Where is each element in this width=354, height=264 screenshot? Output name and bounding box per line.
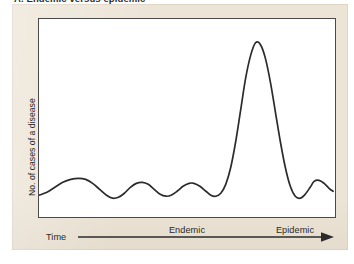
figure-title: A. Endemic versus epidemic xyxy=(14,0,145,4)
time-arrow-icon xyxy=(78,230,336,244)
time-axis: Time xyxy=(46,230,336,248)
disease-cases-curve xyxy=(39,42,333,198)
plot-frame: Endemic Epidemic xyxy=(38,18,336,218)
y-axis-label: No. of cases of a disease xyxy=(27,0,37,196)
time-axis-label: Time xyxy=(46,232,66,242)
disease-cases-curve-svg xyxy=(39,19,335,217)
